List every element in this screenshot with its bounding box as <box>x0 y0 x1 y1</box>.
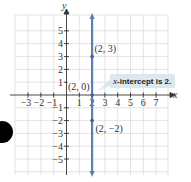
svg-text:3: 3 <box>102 97 107 108</box>
callout-text: -intercept is 2. <box>117 77 171 86</box>
svg-text:5: 5 <box>128 97 133 108</box>
svg-text:−5: −5 <box>52 154 63 165</box>
svg-text:4: 4 <box>58 38 63 49</box>
svg-text:7: 7 <box>154 97 159 108</box>
svg-text:−3: −3 <box>21 97 32 108</box>
svg-text:2: 2 <box>58 64 63 75</box>
coordinate-plane: x y −3 −2 −1 1 2 3 4 5 6 7 5 4 3 2 1 −1 … <box>0 0 191 182</box>
svg-text:−2: −2 <box>52 115 63 126</box>
point-label-2-neg2: (2, −2) <box>96 123 123 135</box>
x-intercept-callout: x-intercept is 2. <box>98 74 175 91</box>
svg-text:1: 1 <box>77 97 82 108</box>
x-tick-labels: −3 −2 −1 1 2 3 4 5 6 7 <box>21 97 159 108</box>
svg-text:1: 1 <box>58 77 63 88</box>
svg-text:−2: −2 <box>34 97 45 108</box>
svg-text:5: 5 <box>58 25 63 36</box>
svg-text:4: 4 <box>115 97 120 108</box>
svg-text:−1: −1 <box>52 102 63 113</box>
x-axis-label: x <box>172 89 178 100</box>
line-arrow-up-icon <box>90 13 95 19</box>
y-axis-label: y <box>61 0 67 11</box>
line-arrow-down-icon <box>90 171 95 177</box>
svg-text:−3: −3 <box>52 128 63 139</box>
point-2-3 <box>90 55 94 59</box>
svg-text:3: 3 <box>58 51 63 62</box>
point-2-0 <box>90 93 94 97</box>
svg-text:6: 6 <box>141 97 146 108</box>
svg-text:x-intercept is 2.: x-intercept is 2. <box>112 76 171 86</box>
point-label-2-0: (2, 0) <box>68 81 90 93</box>
point-2-neg2 <box>90 119 94 123</box>
black-dot-marker <box>0 121 13 143</box>
point-label-2-3: (2, 3) <box>95 43 117 55</box>
svg-text:−4: −4 <box>52 141 63 152</box>
